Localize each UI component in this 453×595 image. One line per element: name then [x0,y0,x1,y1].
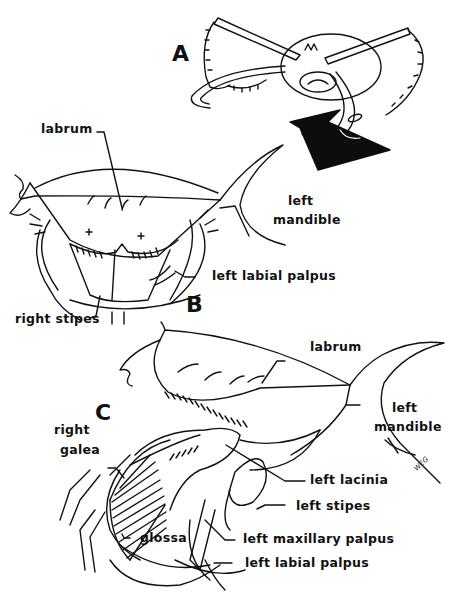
label-b-labrum: labrum [41,123,93,136]
label-c-left-maxillary-palpus: left maxillary palpus [243,533,394,546]
label-c-glossa: glossa [140,532,187,545]
label-c-left-labial-palpus: left labial palpus [245,557,369,570]
label-b-left-labial-palpus: left labial palpus [212,270,336,283]
label-c-right-galea-line1: right [54,424,90,437]
label-c-right-galea-line2: galea [60,444,100,457]
direction-arrow [290,110,390,170]
label-b-left-mandible-line1: left [288,195,313,208]
panel-c-drawing [60,322,444,590]
illustration-canvas [0,0,453,595]
label-c-left-lacinia: left lacinia [310,474,388,487]
label-c-left-stipes: left stipes [296,500,370,513]
panel-b-drawing [10,132,285,324]
label-b-right-stipes: right stipes [15,313,100,326]
label-c-left-mandible-line1: left [392,402,417,415]
label-c-left-mandible-line2: mandible [374,421,442,434]
panel-letter-c: C [95,402,111,424]
panel-letter-b: B [186,294,203,316]
panel-letter-a: A [172,43,189,65]
label-c-labrum: labrum [310,341,362,354]
label-b-left-mandible-line2: mandible [273,214,341,227]
